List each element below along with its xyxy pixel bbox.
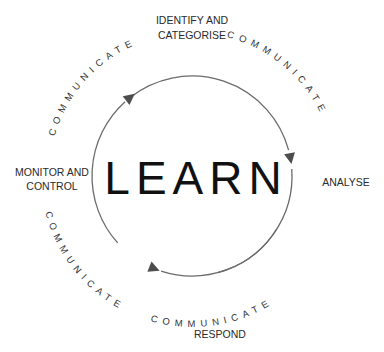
center-label: LEARN [104, 152, 287, 204]
stage-respond: RESPOND [194, 328, 246, 340]
stage-identify: IDENTIFY AND CATEGORISE [156, 14, 229, 41]
communicate-label-top-left: COMMUNICATE [46, 36, 138, 138]
arrowhead-icon [147, 262, 159, 272]
stage-label-line: MONITOR AND [15, 166, 89, 178]
cycle-arc-top [130, 76, 288, 150]
stage-label-line: ANALYSE [322, 176, 370, 188]
learn-cycle-diagram: LEARN IDENTIFY AND CATEGORISE ANALYSE RE… [0, 0, 384, 352]
communicate-label-bottom-left: COMMUNICATE [43, 210, 127, 312]
stage-label-line: CATEGORISE [158, 29, 226, 41]
communicate-label-top-right: COMMUNICATE [226, 28, 330, 117]
stage-label-line: IDENTIFY AND [156, 14, 229, 26]
stage-label-line: RESPOND [194, 328, 246, 340]
stage-analyse: ANALYSE [322, 176, 370, 188]
stage-label-line: CONTROL [26, 180, 77, 192]
stage-monitor: MONITOR AND CONTROL [15, 166, 89, 192]
arrowhead-icon [123, 94, 135, 105]
communicate-label-bottom-right: COMMUNICATE [150, 295, 275, 329]
cycle-arc-bottom [161, 229, 277, 276]
